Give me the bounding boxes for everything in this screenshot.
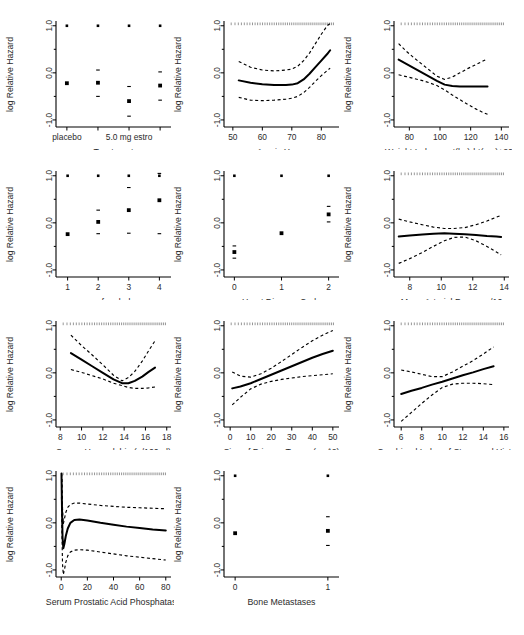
confidence-band-upper bbox=[399, 44, 488, 80]
plot-panel-8: 1.00.0-1.0log Relative Hazard6810121416C… bbox=[338, 300, 512, 450]
reference-dot bbox=[97, 174, 100, 177]
axes bbox=[394, 21, 509, 127]
reference-dot bbox=[159, 24, 162, 27]
confidence-band-lower bbox=[232, 374, 333, 405]
x-tick-label: 12 bbox=[468, 282, 478, 292]
y-axis-label: log Relative Hazard bbox=[5, 37, 15, 112]
x-tick-label: 10 bbox=[437, 282, 447, 292]
reference-dot bbox=[233, 174, 236, 177]
plot-panel-6: 1.00.0-1.0log Relative Hazard81012141618… bbox=[0, 300, 174, 450]
y-axis-label: log Relative Hazard bbox=[173, 37, 183, 112]
reference-dot bbox=[327, 174, 330, 177]
x-tick-label: 20 bbox=[267, 432, 277, 442]
y-axis-label: log Relative Hazard bbox=[5, 187, 15, 262]
rug-marks bbox=[401, 323, 503, 326]
x-tick-label: 4 bbox=[157, 282, 162, 292]
panel-canvas: 1.00.0-1.0log Relative Hazard8101214Mean… bbox=[338, 150, 512, 300]
confidence-band-lower bbox=[399, 75, 488, 115]
point-estimate bbox=[232, 250, 236, 254]
y-tick-label: 1.0 bbox=[44, 170, 54, 182]
y-tick-label: -1.0 bbox=[382, 262, 392, 277]
y-tick-label: 0.0 bbox=[44, 217, 54, 229]
y-axis-label: log Relative Hazard bbox=[173, 337, 183, 412]
panel-canvas: 1.00.0-1.0log Relative Hazard012Heart Di… bbox=[168, 150, 342, 300]
y-tick-label: -1.0 bbox=[212, 112, 222, 127]
reference-dot bbox=[66, 174, 69, 177]
y-tick-label: 0.0 bbox=[44, 517, 54, 529]
panel-canvas: 1.00.0-1.0log Relative Hazard6810121416C… bbox=[338, 300, 512, 450]
x-tick-label: 70 bbox=[287, 132, 297, 142]
x-tick-label: 0 bbox=[59, 582, 64, 592]
x-tick-label: 14 bbox=[479, 432, 489, 442]
x-tick-label: 10 bbox=[77, 432, 87, 442]
y-tick-label: -1.0 bbox=[44, 112, 54, 127]
x-tick-label: 2 bbox=[96, 282, 101, 292]
x-tick-label: 8 bbox=[407, 282, 412, 292]
x-tick-label: 120 bbox=[464, 132, 478, 142]
x-tick-label: 8 bbox=[58, 432, 63, 442]
x-tick-label: 80 bbox=[405, 132, 415, 142]
rug-marks bbox=[231, 23, 333, 26]
reference-dot bbox=[234, 474, 237, 477]
axes bbox=[394, 321, 509, 427]
plot-panel-4: 1.00.0-1.0log Relative Hazard012Heart Di… bbox=[168, 150, 342, 300]
plot-panel-9: 1.00.0-1.0log Relative Hazard020406080Se… bbox=[0, 450, 174, 610]
reference-dot bbox=[97, 24, 100, 27]
x-tick-label: 0 bbox=[228, 432, 233, 442]
confidence-band-upper bbox=[71, 335, 155, 381]
y-tick-label: 1.0 bbox=[212, 170, 222, 182]
y-tick-label: 0.0 bbox=[212, 67, 222, 79]
y-tick-label: 0.0 bbox=[212, 217, 222, 229]
y-tick-label: 0.0 bbox=[212, 517, 222, 529]
axes bbox=[56, 21, 171, 127]
y-tick-label: -1.0 bbox=[44, 562, 54, 577]
x-tick-label: 0 bbox=[233, 582, 238, 592]
point-estimate bbox=[127, 208, 131, 212]
plot-panel-1: 1.00.0-1.0log Relative Hazard50607080Age… bbox=[168, 0, 342, 150]
y-tick-label: 1.0 bbox=[382, 20, 392, 32]
y-axis-label: log Relative Hazard bbox=[343, 337, 353, 412]
y-tick-label: -1.0 bbox=[382, 112, 392, 127]
x-tick-label: 100 bbox=[433, 132, 447, 142]
x-tick-label: 80 bbox=[317, 132, 327, 142]
reference-dot bbox=[158, 174, 161, 177]
plot-panel-0: 1.00.0-1.0log Relative Hazardplacebo5.0 … bbox=[0, 0, 174, 150]
x-tick-label: 12 bbox=[458, 432, 468, 442]
x-tick-label: 40 bbox=[109, 582, 119, 592]
x-tick-label: 60 bbox=[258, 132, 268, 142]
point-estimate bbox=[158, 84, 162, 88]
x-tick-label: 3 bbox=[126, 282, 131, 292]
y-tick-label: 1.0 bbox=[212, 320, 222, 332]
x-tick-label: 14 bbox=[119, 432, 129, 442]
x-tick-label: 16 bbox=[499, 432, 509, 442]
y-tick-label: 0.0 bbox=[44, 67, 54, 79]
plot-panel-7: 1.00.0-1.0log Relative Hazard01020304050… bbox=[168, 300, 342, 450]
y-tick-label: -1.0 bbox=[212, 412, 222, 427]
point-estimate bbox=[327, 212, 331, 216]
point-estimate bbox=[96, 81, 100, 85]
x-tick-label: 2 bbox=[326, 282, 331, 292]
plot-panel-5: 1.00.0-1.0log Relative Hazard8101214Mean… bbox=[338, 150, 512, 300]
point-estimate bbox=[326, 529, 330, 533]
y-axis-label: log Relative Hazard bbox=[5, 337, 15, 412]
panel-canvas: 1.00.0-1.0log Relative Hazard81012141618… bbox=[0, 300, 174, 450]
panel-canvas: 1.00.0-1.0log Relative Hazard1234pf.code… bbox=[0, 150, 174, 300]
y-tick-label: 1.0 bbox=[44, 470, 54, 482]
x-tick-label: 140 bbox=[494, 132, 508, 142]
fitted-curve bbox=[399, 60, 488, 87]
confidence-band-upper bbox=[401, 347, 493, 377]
panel-canvas: 1.00.0-1.0log Relative Hazard020406080Se… bbox=[0, 450, 174, 610]
axes bbox=[224, 171, 339, 277]
fitted-curve bbox=[399, 233, 501, 237]
rug-marks bbox=[231, 323, 333, 326]
y-tick-label: 0.0 bbox=[382, 67, 392, 79]
fitted-curve bbox=[232, 351, 333, 389]
x-tick-label: 50 bbox=[228, 132, 238, 142]
reference-dot bbox=[66, 24, 69, 27]
x-tick-label: 1 bbox=[326, 582, 331, 592]
plot-panel-3: 1.00.0-1.0log Relative Hazard1234pf.code… bbox=[0, 150, 174, 300]
panel-canvas: 1.00.0-1.0log Relative Hazardplacebo5.0 … bbox=[0, 0, 174, 150]
axes bbox=[224, 21, 339, 127]
confidence-band-upper bbox=[61, 473, 165, 523]
x-tick-label: 40 bbox=[308, 432, 318, 442]
